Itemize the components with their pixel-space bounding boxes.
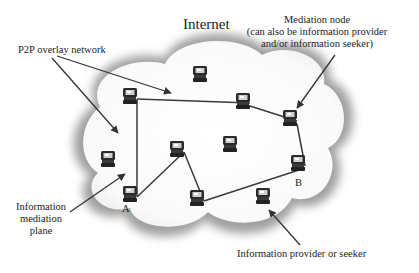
mediation-line-2: (can also be information provider [232,26,402,38]
mediation-line-1: Mediation node [232,14,402,26]
p2p-overlay-label: P2P overlay network [18,44,106,56]
plane-line-2: mediation [12,213,70,225]
computer-node-icon [190,190,204,206]
mediation-node-label: Mediation node (can also be information … [232,14,402,50]
node-a-icon [123,186,137,202]
mediation-node-icon [283,110,297,126]
internet-cloud [83,41,344,227]
plane-line-1: Information [12,201,70,213]
internet-title: Internet [183,16,230,33]
computer-node-icon [101,151,115,167]
node-b-icon [291,155,305,171]
computer-node-icon [123,88,137,104]
computer-node-icon [170,141,184,157]
provider-seeker-label: Information provider or seeker [237,248,366,260]
node-a-label: A [122,203,130,215]
computer-node-icon [223,136,237,152]
mediation-line-3: and/or information seeker) [232,38,402,50]
node-b-label: B [295,177,302,189]
computer-node-icon [193,66,207,82]
computer-node-icon [236,93,250,109]
mediation-plane-label: Information mediation plane [12,201,70,237]
plane-line-3: plane [12,225,70,237]
provider-seeker-node-icon [256,188,270,204]
